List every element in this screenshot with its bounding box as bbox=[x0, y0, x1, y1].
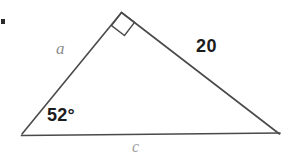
triangle-figure: a 20 52° c bbox=[0, 0, 289, 164]
side-a-label: a bbox=[56, 40, 65, 57]
side-b-line bbox=[122, 13, 280, 135]
angle-measure-label: 52° bbox=[47, 106, 75, 124]
triangle-drawing bbox=[0, 0, 289, 164]
side-c-line bbox=[22, 133, 281, 136]
side-c-label: c bbox=[132, 139, 139, 155]
right-angle-marker-icon bbox=[112, 13, 135, 36]
side-b-length-label: 20 bbox=[196, 37, 217, 55]
